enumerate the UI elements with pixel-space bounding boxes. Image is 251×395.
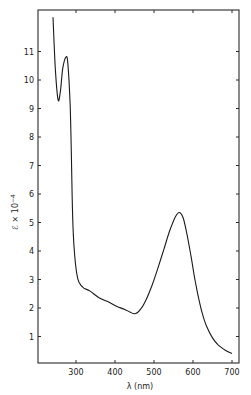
- x-tick-label: 500: [146, 368, 161, 377]
- x-axis-title: λ (nm): [127, 382, 153, 391]
- x-tick-label: 400: [107, 368, 122, 377]
- y-axis-title-main: ℰ × 10: [11, 203, 20, 230]
- y-tick-label: 7: [29, 162, 34, 171]
- y-tick-label: 8: [29, 133, 34, 142]
- y-axis-ticks: 1234567891011: [24, 48, 239, 342]
- spectrum-curve: [53, 17, 232, 353]
- y-tick-label: 4: [29, 247, 34, 256]
- y-tick-label: 3: [29, 276, 34, 285]
- y-tick-label: 5: [29, 219, 34, 228]
- y-tick-label: 10: [24, 76, 34, 85]
- x-tick-label: 700: [224, 368, 239, 377]
- absorption-spectrum-chart: 1234567891011 300400500600700 λ (nm) ℰ ×…: [0, 0, 251, 395]
- x-axis-ticks: 300400500600700: [68, 10, 239, 377]
- y-tick-label: 2: [29, 304, 34, 313]
- svg-text:ℰ × 10−4: ℰ × 10−4: [9, 194, 20, 230]
- y-axis-title-exponent: −4: [9, 194, 16, 203]
- y-tick-label: 6: [29, 190, 34, 199]
- y-tick-label: 9: [29, 105, 34, 114]
- y-tick-label: 11: [24, 48, 34, 57]
- y-axis-title: ℰ × 10−4: [9, 194, 20, 230]
- x-tick-label: 600: [185, 368, 200, 377]
- x-tick-label: 300: [68, 368, 83, 377]
- y-tick-label: 1: [29, 333, 34, 342]
